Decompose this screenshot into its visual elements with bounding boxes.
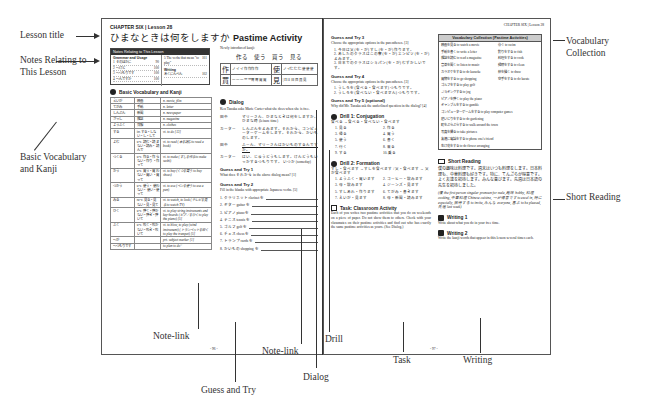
vocab-row: みるru-v. 見る・見 ない・見・見てvt. to watch, to loo… bbox=[111, 197, 212, 207]
guess3-text: Choose the appropriate options in the pa… bbox=[331, 41, 431, 46]
annotation-note-link-2: Note-link bbox=[262, 346, 298, 358]
vocab-collection-item: 生け花をする to do flower arranging bbox=[439, 143, 496, 150]
drill-item: 8. 母・新聞・読みます bbox=[383, 195, 431, 201]
vocab-collection-item: カラオケをする to do karaoke bbox=[439, 69, 496, 76]
vocab-collection-item: 料理をする to cook bbox=[496, 55, 541, 62]
vocab-collection-item: 釣りをする to fish bbox=[496, 49, 541, 56]
vocab-collection-item: 空手をする to do karate bbox=[496, 76, 541, 83]
vocab-collection-item: 友達に電話をする to phone one's friend bbox=[439, 136, 496, 143]
vocab-collection-item: 映画を見る to watch a movie bbox=[439, 42, 496, 49]
vocab-collection-item: ギャンブルをする to gamble bbox=[439, 102, 496, 109]
lesson-title-en: Pastime Activity bbox=[233, 33, 302, 43]
reading-icon bbox=[438, 159, 445, 164]
notes-box: Notes Relating to This Lesson Grammar an… bbox=[110, 48, 210, 85]
guess-section: Guess and Try 3 Choose the appropriate o… bbox=[331, 35, 431, 230]
drill-icon bbox=[331, 161, 337, 167]
annotation-drill: Drill bbox=[325, 334, 343, 346]
running-header: CHAPTER SIX | Lesson 28 bbox=[504, 23, 544, 28]
lesson-title: ひまなときは何をしますかPastime Activity bbox=[110, 30, 302, 44]
annotation-notes: Notes Relating to This Lesson bbox=[20, 55, 90, 78]
reading-writing-section: Short Reading 僕の趣味は料理です。週末はいつも料理をします。日本料… bbox=[438, 159, 542, 241]
vocab-row: つかうu-v. 使う・ 使わない・ 使い・使ってvt. to use (ペンを使… bbox=[111, 183, 212, 198]
annotation-basic-vocab: Basic Vocabulary and Kanji bbox=[20, 152, 90, 175]
short-reading-gloss: (僕 the first person singular pronoun for… bbox=[438, 191, 542, 209]
speech-icon bbox=[220, 99, 226, 105]
annotation-lesson-title: Lesson title bbox=[20, 30, 64, 42]
drill2-items: 1. ようふく・買います2. コーヒー・飲みます3. 母・飲みます4. ジーンズ… bbox=[331, 176, 431, 202]
vocab-collection-item: ジョギングする to jog bbox=[439, 89, 496, 96]
writing2-text: Write the kanji words that appear in thi… bbox=[438, 236, 542, 241]
left-page: CHAPTER SIX | Lesson 28 ひまなときは何をしますかPast… bbox=[101, 18, 324, 355]
fill-in-item: 5. ゴルフ golf を bbox=[220, 225, 318, 229]
kanji-stroke-grid: 作ノ イ イ 作 作 作 作 使ノ イ 仁 仁 仁 使 使 使 買一 一 一 罒… bbox=[220, 63, 318, 86]
page-number: - 97 - bbox=[430, 347, 438, 351]
fill-in-item: 4. テニス tennis を bbox=[220, 218, 318, 222]
vocab-collection-item: コンピューターゲームをする to play computer games bbox=[439, 109, 496, 116]
guess2-heading: Guess and Try 2 bbox=[220, 182, 318, 187]
vocab-collection-item: 音楽を聞く to listen to music bbox=[439, 62, 496, 69]
lesson-title-jp: ひまなときは何をしますか bbox=[110, 33, 230, 43]
pen-icon bbox=[438, 215, 444, 221]
dialog-section: Dialog Ken Tanaka asks Marie Carter what… bbox=[220, 99, 318, 254]
new-kanji-line: 作る 使う 買う 見る bbox=[220, 53, 318, 61]
vocab-row: よむu-v. 読む・読 まない・読み・ 読んでvt. to read (本を読む… bbox=[111, 139, 212, 154]
guess1-heading: Guess and Try 1 bbox=[220, 167, 318, 172]
fill-in-item: 8. かいもの shopping を bbox=[220, 247, 318, 251]
drill-item: 7. えいが・見ます bbox=[335, 195, 383, 201]
guess1-text: What does それから in the above dialog mean?… bbox=[220, 173, 318, 178]
vocab-row: ふくu-v. 吹く・吹か ない・吹き・吹 いてvt. to blow, to p… bbox=[111, 222, 212, 237]
short-reading-heading: Short Reading bbox=[438, 159, 542, 164]
dialog-line: カーターはい、じゅうどうもします。けんどうもいっかするつもりです。 いつか (s… bbox=[220, 155, 318, 164]
drill1-items: 1. 見る2. 作る3. 帰る4. 買う5. 使う6. 書く7. 行く8. 来る… bbox=[331, 125, 431, 157]
drill2-example: すし・食べます → すしを食べます / 父・食べます → 父が食べます bbox=[331, 167, 431, 176]
fill-in-item: 3. ピアノ piano を bbox=[220, 211, 318, 215]
guess3-heading: Guess and Try 3 bbox=[331, 35, 431, 40]
vocab-collection-item: 掃除をする to clean bbox=[496, 62, 541, 69]
exercise-item: 2. あしたのクラスはこの寮 (を・が) エンピツ (を・が) よみます。 bbox=[334, 52, 431, 61]
dialog-intro: Ken Tanaka asks Marie Carter what she do… bbox=[220, 107, 318, 112]
vocab-collection-item: ピアノを弾く to play the piano bbox=[439, 96, 496, 103]
annotation-vocab-collection: Vocabulary Collection bbox=[566, 36, 641, 59]
note-item[interactable]: あくにんべん102 bbox=[164, 72, 207, 78]
vocab-table: えいが映画n. movie, filmてがみ手紙n. letterしんぶん新聞n… bbox=[110, 97, 212, 250]
annotation-dialog: Dialog bbox=[303, 372, 329, 384]
annotation-short-reading: Short Reading bbox=[566, 192, 636, 204]
note-item[interactable]: 4 〜んですか100 bbox=[113, 77, 159, 83]
guess2-text: Fill in the blanks with appropriate Japa… bbox=[220, 188, 318, 193]
vocab-collection-item: 町をぶらぶらする to walk around the town bbox=[439, 122, 496, 129]
page-number: - 96 - bbox=[210, 347, 218, 351]
dialog-line: カーターしんぶんをよみます。それから、コンピューターゲームをします。それから、か… bbox=[220, 127, 318, 141]
exercise-item: 3. 日本でのクラスはショパン (を・が) むずかしいです。 bbox=[334, 61, 431, 70]
dialog-heading: Dialog bbox=[220, 99, 318, 105]
vocab-collection-item: 手紙を書く to write a letter bbox=[439, 49, 496, 56]
dialog-line: 田中ふーん、マリーさんはかいものするんですか。 bbox=[220, 143, 318, 152]
guess4-text: Choose the appropriate options in the pa… bbox=[331, 80, 431, 85]
vocab-heading: Basic Vocabulary and Kanji bbox=[110, 89, 182, 95]
vocab-collection-heading: Vocabulary Collection (Pastime Activitie… bbox=[439, 35, 541, 42]
drill-item: 9. する bbox=[335, 150, 383, 156]
fill-in-item: 6. チェス chess を bbox=[220, 232, 318, 236]
writing1-text: Write about what you do in your free tim… bbox=[438, 221, 542, 226]
vocab-collection-item: 庭いじりをする to do gardening bbox=[439, 116, 496, 123]
new-kanji-label: Newly introduced kanji: bbox=[220, 46, 318, 51]
annotation-task: Task bbox=[393, 355, 411, 367]
fill-in-item: 1. クラリネット clarinet を bbox=[220, 196, 318, 200]
vocab-row: かうu-v. 買う・買 わない・買い ・買ってvt. to buy (くつを買う… bbox=[111, 168, 212, 183]
new-kanji-box: Newly introduced kanji: 作る 使う 買う 見る 作ノ イ… bbox=[220, 46, 318, 86]
exercise-item: 2. うしろを (食べない・食べません) つもりです。 bbox=[334, 91, 431, 96]
vocab-row: つくるu-v. 作る・作 らない・作り ・作ってvt. to make (すしを… bbox=[111, 154, 212, 169]
vocab-collection-item: ゴルフをする to play golf bbox=[439, 82, 496, 89]
short-reading-text: 僕の趣味は料理です。週末はいつも料理をします。日本料理も、中華料理も好きです。特… bbox=[438, 166, 542, 188]
vocab-collection-item: 買物をする to go shopping bbox=[439, 76, 496, 83]
vocab-row: するirr. する・しな い・し・してvt. to do [13] bbox=[111, 129, 212, 139]
vocab-row: 〜つもりですto plan to do~ bbox=[111, 243, 212, 249]
note-item[interactable]: 5 The verbs that mean "to play"101 bbox=[164, 56, 207, 66]
guess4-heading: Guess and Try 4 bbox=[331, 74, 431, 79]
vocab-collection-item: 写真を撮る to take pictures bbox=[439, 129, 496, 136]
fill-in-item: 7. トランプ cards を bbox=[220, 239, 318, 243]
vocab-collection-item: 絵を描く to draw bbox=[496, 69, 541, 76]
book-icon bbox=[110, 89, 116, 95]
fill-in-item: 2. ギター guitar を bbox=[220, 203, 318, 207]
vocab-collection-item: 泳ぐ to swim bbox=[496, 42, 541, 49]
dialog-line: 田中マリーさん、ひまなときは何をしますか。 ひまな時 (leisure time… bbox=[220, 115, 318, 124]
